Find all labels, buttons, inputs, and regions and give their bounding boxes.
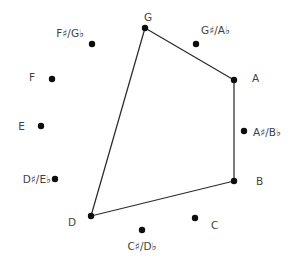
- note-g: G: [142, 11, 152, 31]
- selected-notes-polygon: [91, 28, 234, 216]
- note-label-c-sharpd-flat: C♯/D♭: [128, 240, 157, 252]
- note-f-sharpg-flat: F♯/G♭: [56, 27, 95, 47]
- note-dot-f: [49, 76, 55, 82]
- note-label-c: C: [211, 219, 218, 231]
- note-f: F: [29, 71, 55, 83]
- note-c: C: [192, 215, 219, 231]
- chromatic-circle-figure: GG♯/A♭AA♯/B♭BCC♯/D♭DD♯/E♭EFF♯/G♭: [0, 0, 291, 261]
- note-label-g-sharpa-flat: G♯/A♭: [201, 24, 230, 36]
- note-e: E: [18, 120, 44, 132]
- note-label-a: A: [252, 72, 260, 84]
- note-dot-a: [231, 77, 237, 83]
- note-dot-d-sharpe-flat: [52, 176, 58, 182]
- note-a: A: [231, 72, 260, 84]
- note-label-f-sharpg-flat: F♯/G♭: [56, 27, 84, 39]
- note-label-f: F: [29, 71, 35, 83]
- note-b: B: [231, 175, 263, 187]
- note-dot-d: [88, 213, 94, 219]
- note-label-e: E: [18, 120, 25, 132]
- note-dot-g: [142, 25, 148, 31]
- note-dot-c: [192, 215, 198, 221]
- note-c-sharpd-flat: C♯/D♭: [128, 227, 157, 252]
- note-label-d: D: [68, 216, 76, 228]
- note-d: D: [68, 213, 94, 228]
- note-dot-g-sharpa-flat: [193, 41, 199, 47]
- note-a-sharpb-flat: A♯/B♭: [241, 126, 281, 138]
- note-label-b: B: [256, 175, 263, 187]
- note-label-a-sharpb-flat: A♯/B♭: [253, 126, 281, 138]
- chromatic-circle-diagram: GG♯/A♭AA♯/B♭BCC♯/D♭DD♯/E♭EFF♯/G♭: [0, 0, 291, 261]
- note-label-g: G: [144, 11, 152, 23]
- note-dot-b: [231, 178, 237, 184]
- note-dot-f-sharpg-flat: [89, 41, 95, 47]
- note-g-sharpa-flat: G♯/A♭: [193, 24, 230, 47]
- note-dot-c-sharpd-flat: [139, 227, 145, 233]
- note-dot-a-sharpb-flat: [241, 128, 247, 134]
- note-d-sharpe-flat: D♯/E♭: [23, 173, 58, 185]
- note-label-d-sharpe-flat: D♯/E♭: [23, 173, 51, 185]
- note-dot-e: [38, 123, 44, 129]
